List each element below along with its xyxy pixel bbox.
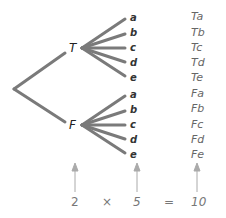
outcome-Fd: Fd: [191, 134, 204, 145]
outcome-Tb: Tb: [191, 27, 205, 38]
leaf-T-b: b: [130, 27, 137, 38]
branch-root-T: [14, 53, 65, 89]
leaf-T-c: c: [130, 42, 136, 53]
outcome-Tc: Tc: [191, 42, 202, 53]
branch-F-b: [82, 111, 125, 125]
outcome-Fe: Fe: [191, 149, 204, 160]
outcome-Te: Te: [191, 72, 203, 83]
branch-F-a: [82, 96, 125, 125]
branch-root-F: [14, 89, 65, 122]
node-T: T: [69, 43, 76, 54]
outcome-Fa: Fa: [191, 88, 204, 99]
leaf-T-a: a: [130, 12, 137, 23]
equation-result: 10: [191, 196, 206, 208]
node-F: F: [69, 120, 76, 131]
leaf-F-d: d: [130, 134, 137, 145]
equation-first-count: 2: [71, 196, 79, 208]
outcome-Ta: Ta: [191, 11, 203, 22]
branch-F-e: [82, 125, 125, 153]
arrow-head-icon: [72, 163, 78, 171]
branch-T-d: [82, 48, 125, 62]
arrow-head-icon: [134, 163, 140, 171]
branch-T-b: [82, 34, 125, 48]
equation-second-count: 5: [133, 196, 141, 208]
leaf-F-a: a: [130, 89, 137, 100]
equation-times-sign: ×: [102, 196, 112, 208]
equation-equals-sign: =: [164, 196, 174, 208]
leaf-F-e: e: [130, 149, 137, 160]
outcome-Fc: Fc: [191, 119, 203, 130]
branch-F-d: [82, 125, 125, 139]
leaf-T-d: d: [130, 57, 137, 68]
branch-T-a: [82, 19, 125, 48]
branch-T-e: [82, 48, 125, 76]
outcome-Fb: Fb: [191, 103, 204, 114]
leaf-T-e: e: [130, 72, 137, 83]
leaf-F-c: c: [130, 119, 136, 130]
leaf-F-b: b: [130, 104, 137, 115]
arrow-head-icon: [194, 163, 200, 171]
outcome-Td: Td: [191, 57, 205, 68]
